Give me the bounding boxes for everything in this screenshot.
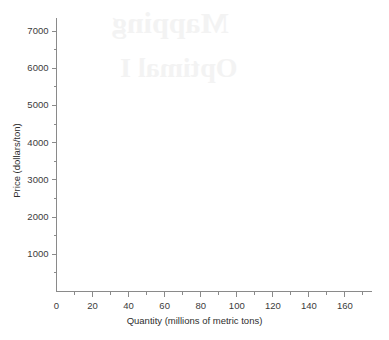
x-axis-title: Quantity (millions of metric tons) (0, 315, 389, 326)
x-tick-label: 100 (229, 301, 245, 311)
x-tick-label: 0 (54, 301, 59, 311)
x-tick-label: 120 (265, 301, 281, 311)
y-tick-label: 5000 (0, 101, 49, 111)
x-tick-label: 40 (123, 301, 134, 311)
x-tick-label: 160 (337, 301, 353, 311)
chart-axes (0, 0, 389, 340)
y-tick-label: 4000 (0, 138, 49, 148)
y-tick-label: 7000 (0, 26, 49, 36)
y-tick-label: 3000 (0, 175, 49, 185)
x-tick-label: 80 (195, 301, 206, 311)
x-tick-label: 20 (87, 301, 98, 311)
y-axis-title: Price (dollars/ton) (11, 101, 22, 221)
x-tick-label: 140 (301, 301, 317, 311)
chart-figure: Mapping Optimal I 1000200030004000500060… (0, 0, 389, 340)
y-tick-label: 6000 (0, 63, 49, 73)
x-tick-label: 60 (159, 301, 170, 311)
y-tick-label: 2000 (0, 212, 49, 222)
y-tick-label: 1000 (0, 250, 49, 260)
